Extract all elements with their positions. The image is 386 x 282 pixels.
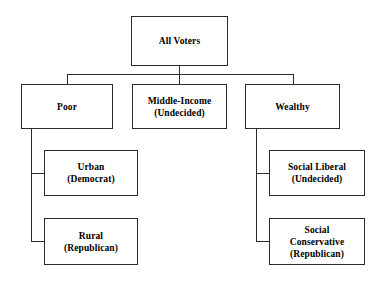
node-middle-income[interactable]: Middle-Income (Undecided) [132,84,227,129]
connector-level1-bus [67,74,294,75]
connector-wealthy-to-social-conservative [256,241,269,242]
node-all-voters[interactable]: All Voters [131,16,228,66]
node-social-liberal-label: Social Liberal (Undecided) [285,161,349,185]
node-social-liberal[interactable]: Social Liberal (Undecided) [269,150,365,196]
diagram-canvas: All Voters Poor Middle-Income (Undecided… [0,0,386,282]
node-rural-label: Rural (Republican) [61,230,121,254]
connector-poor-spine [31,129,32,242]
node-middle-income-label: Middle-Income (Undecided) [145,95,215,119]
node-rural[interactable]: Rural (Republican) [44,218,138,265]
connector-wealthy-to-social-liberal [256,173,269,174]
connector-poor-to-rural [31,241,44,242]
node-poor[interactable]: Poor [21,84,113,129]
node-poor-label: Poor [54,101,80,113]
node-social-conservative[interactable]: Social Conservative (Republican) [269,218,365,265]
connector-drop-middle [179,74,180,84]
connector-drop-wealthy [293,74,294,84]
connector-wealthy-spine [256,129,257,242]
node-all-voters-label: All Voters [156,35,203,47]
node-wealthy[interactable]: Wealthy [245,84,340,129]
node-urban-label: Urban (Democrat) [64,161,117,185]
connector-poor-to-urban [31,173,44,174]
node-social-conservative-label: Social Conservative (Republican) [287,224,348,260]
connector-drop-poor [67,74,68,84]
node-wealthy-label: Wealthy [272,101,312,113]
node-urban[interactable]: Urban (Democrat) [44,150,138,196]
